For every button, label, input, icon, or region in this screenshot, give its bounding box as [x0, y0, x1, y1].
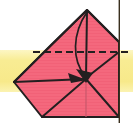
crease-apex-vertical-to-center: [86, 11, 87, 78]
origami-figure-container: [0, 0, 133, 123]
origami-diagram: [0, 0, 133, 123]
